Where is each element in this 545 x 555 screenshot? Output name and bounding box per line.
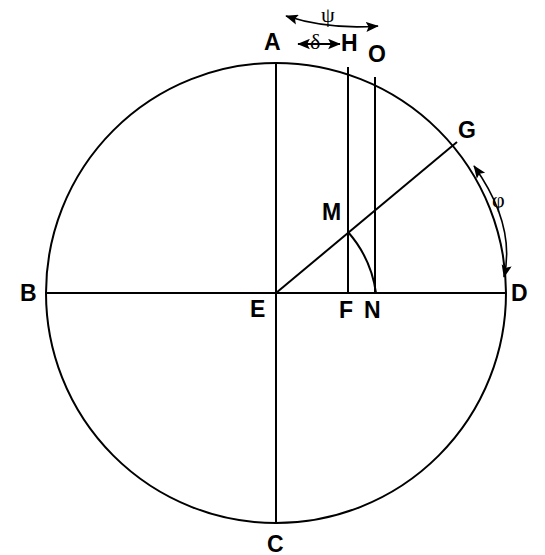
radius-line-EG: [276, 142, 457, 293]
point-label-F: F: [339, 299, 353, 322]
angle-symbol-phi: φ: [492, 189, 505, 211]
point-label-C: C: [267, 533, 284, 555]
point-label-A: A: [264, 31, 281, 54]
diagram-vector-layer: [0, 0, 545, 555]
diagram-canvas: A H O G M B D E F N C ψ δ φ: [0, 0, 545, 555]
point-label-O: O: [368, 43, 386, 66]
point-label-M: M: [322, 201, 341, 224]
point-label-N: N: [364, 299, 381, 322]
point-label-H: H: [341, 32, 358, 55]
point-label-D: D: [511, 282, 528, 305]
point-label-B: B: [20, 282, 37, 305]
angle-symbol-delta: δ: [310, 31, 320, 53]
point-label-G: G: [458, 119, 476, 142]
point-label-E: E: [250, 298, 265, 321]
angle-symbol-psi: ψ: [321, 4, 335, 26]
arc-M-to-N: [348, 232, 376, 293]
